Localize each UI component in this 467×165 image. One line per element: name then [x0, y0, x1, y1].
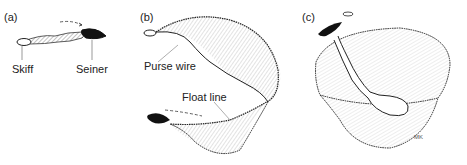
seiner-icon: [147, 113, 170, 123]
direction-arrow-icon: [60, 21, 82, 25]
panel-c: (c) MK: [300, 0, 467, 165]
float-line-label: Float line: [182, 92, 227, 103]
direction-arrow-icon: [165, 110, 202, 116]
seiner-icon: [318, 22, 342, 36]
signature-label: MK: [414, 134, 423, 140]
panel-b-drawing: [130, 0, 300, 165]
seiner-icon: [82, 29, 107, 39]
skiff-icon: [17, 39, 31, 46]
skiff-icon: [144, 30, 156, 36]
panel-a: (a) Skiff Seiner: [0, 0, 130, 165]
panel-c-drawing: [300, 0, 467, 165]
seiner-label: Seiner: [76, 64, 108, 75]
purse-wire-label: Purse wire: [144, 61, 196, 72]
skiff-label: Skiff: [12, 64, 33, 75]
panel-b: (b) Purse wire Float line: [130, 0, 300, 165]
skiff-icon: [343, 12, 353, 16]
